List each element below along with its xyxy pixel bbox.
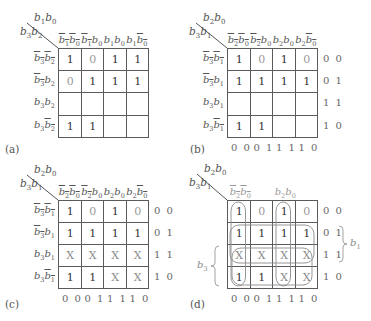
row-gray-code: 1 1 bbox=[323, 249, 343, 260]
kmap-cell: 1 bbox=[127, 71, 150, 93]
kmap-cell: 1 bbox=[59, 223, 82, 245]
column-gray-code: 1 0 bbox=[130, 293, 150, 304]
kmap-cell: X bbox=[296, 245, 319, 267]
col-var-a: b2 bbox=[228, 34, 239, 45]
kmap-cell: 1 bbox=[228, 49, 251, 71]
corner-column-variables: b1b0 bbox=[34, 11, 56, 26]
kmap-cell: X bbox=[104, 245, 127, 267]
column-header: b2b0 bbox=[229, 186, 252, 200]
col-var-a: b2 bbox=[230, 186, 241, 197]
row-var-b: b1 bbox=[213, 96, 224, 107]
var-b-sub: 0 bbox=[52, 170, 56, 178]
row-var-b: b1 bbox=[44, 248, 55, 259]
var-a: b2 bbox=[203, 11, 214, 23]
var-b-sub: 0 bbox=[221, 18, 225, 26]
column-gray-code: 0 0 bbox=[231, 293, 251, 304]
var-b: b1 bbox=[200, 25, 211, 37]
col-var-b-sub: 0 bbox=[290, 40, 294, 48]
kmap-cell: 1 bbox=[82, 223, 105, 245]
kmap-cell: 1 bbox=[104, 49, 127, 71]
column-header: b2b0 bbox=[81, 186, 104, 200]
row-header: b3b1 bbox=[18, 248, 55, 262]
var-a-var: b bbox=[203, 11, 210, 23]
var-a-var: b bbox=[20, 25, 27, 37]
col-var-a: b2 bbox=[295, 34, 306, 45]
kmap-cell: X bbox=[296, 267, 319, 289]
row-var-a: b3 bbox=[34, 226, 45, 237]
var-b: b0 bbox=[215, 162, 226, 174]
row-var-b: b2 bbox=[44, 119, 55, 130]
row-var-a: b3 bbox=[34, 74, 45, 85]
kmap-grid: 1011011111 bbox=[58, 48, 149, 138]
kmap-cell: 1 bbox=[59, 116, 82, 138]
row-gray-code: 1 1 bbox=[323, 97, 343, 108]
panel-label: (c) bbox=[5, 298, 19, 310]
kmap-cell: 0 bbox=[82, 201, 105, 223]
corner-row-variables: b3b1 bbox=[189, 176, 211, 191]
row-var-a: b3 bbox=[203, 119, 214, 130]
var-b-var: b bbox=[31, 25, 38, 37]
kmap-cell: 0 bbox=[251, 201, 274, 223]
column-gray-code: 0 1 bbox=[254, 293, 274, 304]
column-header: b1b0 bbox=[58, 34, 81, 48]
kmap-cell: X bbox=[228, 245, 251, 267]
kmap-cell: X bbox=[127, 245, 150, 267]
col-var-b-sub: 0 bbox=[121, 40, 125, 48]
var-a: b1 bbox=[34, 11, 45, 23]
var-b-var: b bbox=[215, 162, 222, 174]
row-var-b-sub: 2 bbox=[51, 80, 55, 88]
row-header: b3b1 bbox=[18, 204, 55, 218]
col-var-a: b1 bbox=[126, 34, 137, 45]
column-header: b2b0 bbox=[126, 186, 149, 200]
var-a: b3 bbox=[20, 177, 31, 189]
group-var-sub: 3 bbox=[203, 265, 207, 273]
kmap-cell: 1 bbox=[296, 71, 319, 93]
row-var-a: b3 bbox=[203, 74, 214, 85]
row-header: b3b2 bbox=[18, 52, 55, 66]
row-var-b: b2 bbox=[44, 52, 55, 63]
kmap-cell bbox=[82, 93, 105, 115]
kmap-cell: 1 bbox=[296, 223, 319, 245]
col-var-b-sub: 0 bbox=[292, 192, 296, 200]
kmap-cell bbox=[296, 93, 319, 115]
row-var-a: b3 bbox=[34, 119, 45, 130]
kmap-cell bbox=[104, 116, 127, 138]
var-b: b2 bbox=[31, 25, 42, 37]
var-b-var: b bbox=[200, 25, 207, 37]
row-gray-code: 0 0 bbox=[323, 205, 343, 216]
var-b-sub: 1 bbox=[207, 183, 211, 191]
group-var: b1 bbox=[350, 237, 361, 248]
var-a: b3 bbox=[189, 25, 200, 37]
row-var-a: b3 bbox=[34, 52, 45, 63]
row-header: b3b1 bbox=[18, 270, 55, 284]
col-var-b-sub: 0 bbox=[267, 40, 271, 48]
row-var-b-sub: 1 bbox=[220, 58, 224, 66]
col-var-b: b0 bbox=[114, 186, 125, 197]
col-var-b: b0 bbox=[261, 34, 272, 45]
kmap-grid: 10101111XXXX11XX bbox=[58, 200, 149, 289]
row-var-b: b1 bbox=[44, 204, 55, 215]
row-var-b-sub: 2 bbox=[51, 125, 55, 133]
column-gray-code: 0 1 bbox=[254, 142, 274, 153]
corner-row-variables: b3b2 bbox=[20, 25, 42, 40]
col-var-b: b0 bbox=[283, 34, 294, 45]
var-b-sub: 0 bbox=[222, 169, 226, 177]
row-header: b3b1 bbox=[187, 119, 224, 133]
column-header: b2b0 bbox=[295, 34, 318, 48]
kmap-cell: X bbox=[104, 267, 127, 289]
var-b-var: b bbox=[31, 177, 38, 189]
col-var-b-sub: 0 bbox=[245, 40, 249, 48]
kmap-cell: 0 bbox=[82, 49, 105, 71]
column-gray-code: 0 0 bbox=[62, 293, 82, 304]
row-var-a: b3 bbox=[203, 52, 214, 63]
kmap-cell: 1 bbox=[251, 116, 274, 138]
kmap-cell: 1 bbox=[59, 49, 82, 71]
col-var-b-sub: 0 bbox=[98, 40, 102, 48]
row-header: b3b1 bbox=[18, 226, 55, 240]
kmap-cell: X bbox=[273, 245, 296, 267]
col-var-b: b0 bbox=[69, 34, 80, 45]
row-header: b3b2 bbox=[18, 96, 55, 110]
column-gray-code: 1 1 bbox=[276, 293, 296, 304]
col-var-b: b0 bbox=[285, 186, 296, 197]
var-a-var: b bbox=[189, 25, 196, 37]
